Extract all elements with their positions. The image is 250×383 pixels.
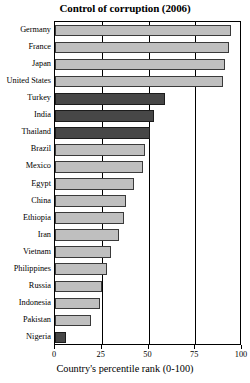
bar-row [55, 93, 240, 105]
y-label-turkey: Turkey [0, 93, 51, 102]
bar-china [55, 195, 126, 207]
bar-russia [55, 281, 102, 293]
y-label-philippines: Philippines [0, 264, 51, 273]
bar-mexico [55, 161, 143, 173]
y-label-india: India [0, 110, 51, 119]
bar-row [55, 281, 240, 293]
bar-row [55, 332, 240, 344]
x-tick-0 [54, 345, 55, 349]
x-tick-label-0: 0 [52, 350, 56, 360]
bar-row [55, 212, 240, 224]
bar-ethiopia [55, 212, 124, 224]
bar-row [55, 195, 240, 207]
y-label-egypt: Egypt [0, 179, 51, 188]
bar-thailand [55, 127, 150, 139]
y-label-thailand: Thailand [0, 127, 51, 136]
y-label-china: China [0, 196, 51, 205]
plot-area [54, 21, 241, 345]
y-label-pakistan: Pakistan [0, 315, 51, 324]
y-label-iran: Iran [0, 230, 51, 239]
y-label-russia: Russia [0, 281, 51, 290]
bar-row [55, 42, 240, 54]
bar-indonesia [55, 298, 100, 310]
x-tick-label-50: 50 [143, 350, 151, 360]
x-axis-ticks [54, 345, 242, 349]
bar-row [55, 161, 240, 173]
bar-japan [55, 59, 225, 71]
bar-row [55, 263, 240, 275]
x-axis-label: Country's percentile rank (0-100) [0, 363, 250, 374]
y-label-france: France [0, 42, 51, 51]
bar-row [55, 110, 240, 122]
x-tick-label-100: 100 [235, 350, 247, 360]
bar-egypt [55, 178, 134, 190]
y-label-germany: Germany [0, 25, 51, 34]
bar-row [55, 178, 240, 190]
bar-vietnam [55, 246, 111, 258]
x-tick-75 [194, 345, 195, 349]
bar-india [55, 110, 154, 122]
bar-row [55, 127, 240, 139]
chart-title: Control of corruption (2006) [0, 2, 250, 14]
bar-row [55, 76, 240, 88]
x-tick-label-25: 25 [97, 350, 105, 360]
bar-row [55, 59, 240, 71]
bar-row [55, 246, 240, 258]
y-label-japan: Japan [0, 59, 51, 68]
bar-brazil [55, 144, 145, 156]
x-tick-label-75: 75 [190, 350, 198, 360]
chart-figure: Control of corruption (2006) GermanyFran… [0, 0, 250, 383]
x-tick-50 [148, 345, 149, 349]
bar-row [55, 229, 240, 241]
y-axis-category-labels: GermanyFranceJapanUnited StatesTurkeyInd… [0, 21, 51, 345]
bar-turkey [55, 93, 165, 105]
bar-series [55, 22, 240, 344]
bar-row [55, 25, 240, 37]
x-tick-25 [101, 345, 102, 349]
bar-nigeria [55, 332, 66, 344]
x-tick-100 [241, 345, 242, 349]
bar-pakistan [55, 315, 91, 327]
bar-philippines [55, 263, 107, 275]
y-label-brazil: Brazil [0, 144, 51, 153]
y-label-mexico: Mexico [0, 161, 51, 170]
bar-row [55, 144, 240, 156]
y-label-vietnam: Vietnam [0, 247, 51, 256]
bar-row [55, 315, 240, 327]
y-label-nigeria: Nigeria [0, 332, 51, 341]
x-axis-tick-labels: 0255075100 [0, 350, 250, 362]
y-label-ethiopia: Ethiopia [0, 213, 51, 222]
bar-germany [55, 25, 231, 37]
bar-iran [55, 229, 119, 241]
bar-france [55, 42, 229, 54]
y-label-indonesia: Indonesia [0, 298, 51, 307]
bar-united-states [55, 76, 223, 88]
bar-row [55, 298, 240, 310]
y-label-united-states: United States [0, 76, 51, 85]
